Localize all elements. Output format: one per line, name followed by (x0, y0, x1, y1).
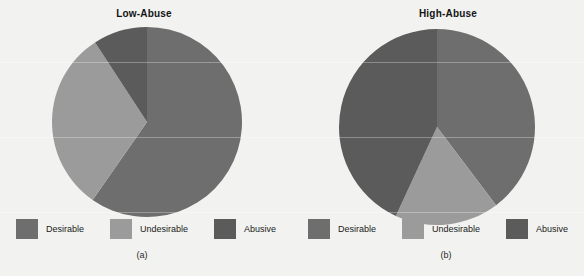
legend-swatch-desirable-icon (16, 219, 38, 239)
legend-item-desirable[interactable]: Desirable (16, 219, 84, 239)
chart-title-low-abuse: Low-Abuse (0, 8, 290, 19)
legend-label-undesirable: Undesirable (432, 224, 480, 234)
pie-svg-low-abuse (51, 26, 243, 218)
legend-label-abusive: Abusive (244, 224, 276, 234)
figure-canvas: Low-Abuse Desirable Undesirable Abusive … (0, 0, 584, 276)
chart-title-high-abuse: High-Abuse (302, 8, 584, 19)
legend-high-abuse: Desirable Undesirable Abusive (292, 219, 584, 239)
subfigure-caption-b: (b) (300, 250, 584, 260)
legend-label-desirable: Desirable (46, 224, 84, 234)
legend-item-undesirable[interactable]: Undesirable (402, 219, 480, 239)
legend-swatch-abusive-icon (506, 219, 528, 239)
pie-svg-high-abuse (338, 28, 536, 226)
legend-item-desirable[interactable]: Desirable (308, 219, 376, 239)
pie-chart-low-abuse (51, 26, 243, 218)
pie-chart-high-abuse (338, 28, 536, 226)
legend-item-abusive[interactable]: Abusive (214, 219, 276, 239)
legend-swatch-undesirable-icon (110, 219, 132, 239)
legend-swatch-undesirable-icon (402, 219, 424, 239)
legend-swatch-desirable-icon (308, 219, 330, 239)
panel-low-abuse: Low-Abuse Desirable Undesirable Abusive … (0, 0, 292, 276)
legend-label-desirable: Desirable (338, 224, 376, 234)
legend-item-abusive[interactable]: Abusive (506, 219, 568, 239)
legend-swatch-abusive-icon (214, 219, 236, 239)
panel-high-abuse: High-Abuse Desirable Undesirable Abusive… (292, 0, 584, 276)
legend-label-undesirable: Undesirable (140, 224, 188, 234)
legend-low-abuse: Desirable Undesirable Abusive (0, 219, 292, 239)
legend-label-abusive: Abusive (536, 224, 568, 234)
subfigure-caption-a: (a) (0, 250, 288, 260)
legend-item-undesirable[interactable]: Undesirable (110, 219, 188, 239)
